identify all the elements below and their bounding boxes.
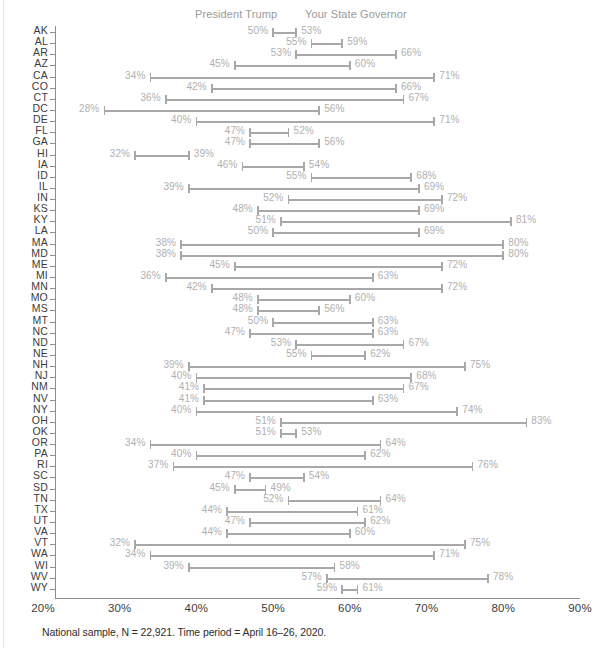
cap-governor [441, 262, 443, 271]
value-label-governor: 69% [424, 181, 444, 193]
chart-row[interactable]: HI32%39% [0, 150, 614, 161]
chart-row[interactable]: ND53%67% [0, 339, 614, 350]
cap-governor [318, 106, 320, 115]
value-label-governor: 62% [370, 348, 390, 360]
dumbbell-connector [189, 366, 465, 368]
chart-row[interactable]: NJ40%68% [0, 372, 614, 383]
cap-governor [433, 73, 435, 82]
dumbbell-connector [150, 555, 434, 557]
state-label: MS [0, 303, 48, 314]
cap-governor [349, 529, 351, 538]
chart-row[interactable]: NV41%63% [0, 395, 614, 406]
x-tick-80pct: 80% [491, 602, 515, 614]
chart-row[interactable]: KY51%81% [0, 216, 614, 227]
y-tick-mark [50, 43, 55, 44]
dumbbell-connector [212, 88, 396, 90]
cap-trump [173, 462, 175, 471]
chart-row[interactable]: ID55%68% [0, 172, 614, 183]
dumbbell-connector [296, 344, 403, 346]
chart-row[interactable]: WY59%61% [0, 584, 614, 595]
chart-row[interactable]: PA40%62% [0, 450, 614, 461]
value-label-trump: 32% [101, 148, 130, 160]
chart-row[interactable]: DC28%56% [0, 105, 614, 116]
chart-row[interactable]: OK51%53% [0, 428, 614, 439]
cap-trump [311, 39, 313, 48]
chart-row[interactable]: CA34%71% [0, 72, 614, 83]
chart-row[interactable]: MT50%63% [0, 317, 614, 328]
dumbbell-connector [204, 388, 403, 390]
cap-trump [134, 151, 136, 160]
legend-label-your-state-governor: Your State Governor [305, 8, 407, 20]
chart-row[interactable]: TN52%64% [0, 495, 614, 506]
dumbbell-connector [235, 65, 350, 67]
y-tick-mark [50, 366, 55, 367]
value-label-governor: 60% [355, 526, 375, 538]
cap-governor [502, 251, 504, 260]
dumbbell-connector [250, 477, 304, 479]
chart-row[interactable]: AK50%53% [0, 27, 614, 38]
y-tick-mark [50, 578, 55, 579]
value-label-trump: 34% [116, 437, 145, 449]
value-label-trump: 59% [308, 582, 337, 594]
value-label-trump: 37% [139, 459, 168, 471]
dumbbell-connector [242, 166, 303, 168]
chart-row[interactable]: WV57%78% [0, 573, 614, 584]
chart-row[interactable]: SC47%54% [0, 472, 614, 483]
value-label-governor: 54% [309, 159, 329, 171]
dumbbell-connector [135, 155, 189, 157]
chart-row[interactable]: AZ45%60% [0, 60, 614, 71]
cap-trump [311, 173, 313, 182]
chart-row[interactable]: NC47%63% [0, 328, 614, 339]
y-tick-mark [50, 54, 55, 55]
value-label-governor: 72% [447, 192, 467, 204]
value-label-trump: 53% [262, 47, 291, 59]
chart-row[interactable]: AR53%66% [0, 49, 614, 60]
x-tick-30pct: 30% [108, 602, 132, 614]
y-tick-mark [50, 377, 55, 378]
chart-row[interactable]: GA47%56% [0, 138, 614, 149]
value-label-governor: 63% [378, 326, 398, 338]
chart-row[interactable]: ME45%72% [0, 261, 614, 272]
chart-row[interactable]: MS48%56% [0, 305, 614, 316]
chart-row[interactable]: NY40%74% [0, 406, 614, 417]
chart-row[interactable]: AL55%59% [0, 38, 614, 49]
chart-row[interactable]: OR34%64% [0, 439, 614, 450]
dumbbell-connector [258, 299, 350, 301]
chart-row[interactable]: MI36%63% [0, 272, 614, 283]
value-label-governor: 71% [439, 548, 459, 560]
value-label-trump: 40% [162, 114, 191, 126]
chart-row[interactable]: NH39%75% [0, 361, 614, 372]
value-label-trump: 46% [208, 159, 237, 171]
dumbbell-connector [181, 255, 503, 257]
chart-row[interactable]: IN52%72% [0, 194, 614, 205]
value-label-governor: 72% [447, 281, 467, 293]
chart-row[interactable]: CO42%66% [0, 83, 614, 94]
chart-row[interactable]: MO48%60% [0, 294, 614, 305]
cap-governor [410, 173, 412, 182]
y-tick-mark [50, 88, 55, 89]
y-tick-mark [50, 322, 55, 323]
chart-row[interactable]: UT47%62% [0, 517, 614, 528]
chart-row[interactable]: NM41%67% [0, 383, 614, 394]
chart-row[interactable]: RI37%76% [0, 461, 614, 472]
chart-row[interactable]: IL39%69% [0, 183, 614, 194]
y-tick-mark [50, 422, 55, 423]
chart-row[interactable]: FL47%52% [0, 127, 614, 138]
cap-governor [464, 362, 466, 371]
value-label-governor: 60% [355, 292, 375, 304]
chart-row[interactable]: MN42%72% [0, 283, 614, 294]
chart-row[interactable]: NE55%62% [0, 350, 614, 361]
y-tick-mark [50, 188, 55, 189]
y-tick-mark [50, 477, 55, 478]
chart-row[interactable]: SD45%49% [0, 484, 614, 495]
chart-row[interactable]: VA44%60% [0, 528, 614, 539]
x-tick-40pct: 40% [185, 602, 209, 614]
chart-row[interactable]: WA34%71% [0, 550, 614, 561]
cap-trump [188, 184, 190, 193]
chart-row[interactable]: VT32%75% [0, 539, 614, 550]
cap-governor [487, 574, 489, 583]
dumbbell-connector [189, 567, 335, 569]
chart-row[interactable]: TX44%61% [0, 506, 614, 517]
chart-row[interactable]: MD38%80% [0, 250, 614, 261]
chart-row[interactable]: IA46%54% [0, 161, 614, 172]
